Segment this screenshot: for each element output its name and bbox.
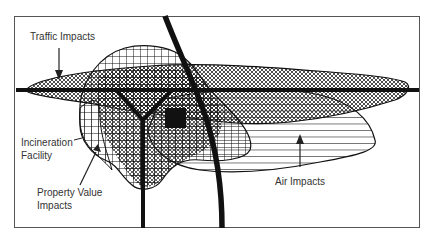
property-value-label-line2: Impacts — [37, 200, 72, 212]
incineration-facility-label-line1: Incineration — [21, 137, 73, 149]
incineration-facility-marker — [165, 108, 186, 128]
incineration-facility-label-line2: Facility — [21, 150, 52, 162]
traffic-impacts-label: Traffic Impacts — [30, 31, 95, 43]
property-value-label-line1: Property Value — [37, 187, 102, 199]
air-impacts-label: Air Impacts — [275, 176, 325, 188]
